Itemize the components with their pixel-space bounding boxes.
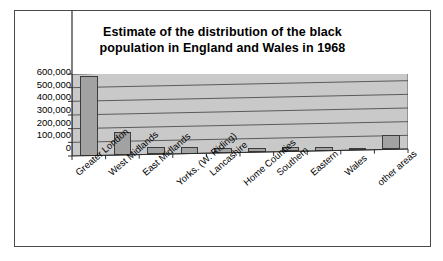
x-axis-label: Wales xyxy=(342,153,368,178)
y-tick-label: 600,000 xyxy=(37,67,71,77)
bar xyxy=(248,148,265,153)
y-tick-label: 300,000 xyxy=(37,105,71,115)
y-tick-label: 0 xyxy=(66,143,71,153)
y-tick-label: 200,000 xyxy=(37,118,71,128)
y-tick-label: 500,000 xyxy=(37,80,71,90)
chart-frame: Estimate of the distribution of the blac… xyxy=(14,10,431,247)
bar xyxy=(80,76,97,155)
bar xyxy=(382,135,399,149)
y-tick-label: 100,000 xyxy=(37,130,71,140)
x-axis-category-labels: Greater LondonWest MidlandsEast Midlands… xyxy=(15,161,432,246)
y-axis-tick-labels: 600,000500,000400,000300,000200,000100,0… xyxy=(17,71,71,155)
plot-wrapper: 600,000500,000400,000300,000200,000100,0… xyxy=(15,11,432,248)
bar xyxy=(349,148,366,150)
y-tick-label: 400,000 xyxy=(37,92,71,102)
bar xyxy=(181,147,198,154)
